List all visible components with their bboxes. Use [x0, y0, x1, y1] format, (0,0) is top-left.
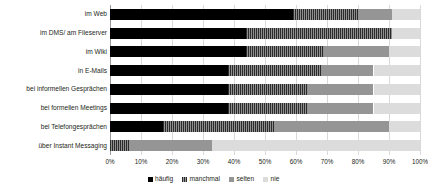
bar-segment-nie	[374, 103, 421, 114]
legend-label: nie	[271, 175, 280, 183]
bar-row	[110, 9, 420, 20]
bar-segment-nie	[392, 9, 420, 20]
bar-segment-nie	[374, 84, 421, 95]
legend-swatch-icon	[263, 177, 268, 182]
bar-segment-selten	[308, 84, 373, 95]
bar-segment-häufig	[110, 46, 246, 57]
bar-segment-selten	[321, 65, 374, 76]
bar-segment-selten	[129, 140, 213, 151]
x-tick-label: 30%	[197, 157, 210, 166]
bar-segment-nie	[392, 28, 420, 39]
bar-row	[110, 65, 420, 76]
bar-segment-häufig	[110, 121, 163, 132]
gridline-100pct	[420, 5, 421, 155]
bar-segment-manchmal	[246, 28, 392, 39]
x-tick-label: 60%	[290, 157, 303, 166]
legend-swatch-icon	[148, 177, 153, 182]
legend-swatch-icon	[229, 177, 234, 182]
x-tick-label: 20%	[166, 157, 179, 166]
category-label: bei Telefongesprächen	[0, 123, 107, 131]
bar-row	[110, 121, 420, 132]
legend-label: selten	[236, 175, 254, 183]
legend-item-manchmal[interactable]: manchmal	[182, 175, 220, 183]
bar-row	[110, 140, 420, 151]
bar-segment-manchmal	[163, 121, 275, 132]
bar-segment-manchmal	[228, 84, 309, 95]
bar-segment-selten	[358, 9, 392, 20]
bar-segment-häufig	[110, 65, 228, 76]
x-tick-label: 70%	[321, 157, 334, 166]
x-tick-label: 80%	[352, 157, 365, 166]
legend-label: häufig	[155, 175, 173, 183]
x-tick-label: 90%	[383, 157, 396, 166]
legend-item-nie[interactable]: nie	[263, 175, 279, 183]
legend-item-selten[interactable]: selten	[229, 175, 254, 183]
bar-segment-selten	[324, 46, 389, 57]
bar-segment-nie	[389, 46, 420, 57]
bar-segment-häufig	[110, 28, 246, 39]
category-axis-labels: im Webim DMS/ am Fileserverim Wikiin E-M…	[0, 5, 107, 155]
bar-segment-häufig	[110, 84, 228, 95]
x-tick-label: 10%	[135, 157, 148, 166]
bar-segment-selten	[308, 103, 373, 114]
bar-segment-häufig	[110, 9, 293, 20]
category-label: bei formellen Meetings	[0, 104, 107, 112]
bar-segment-nie	[374, 65, 421, 76]
chart-legend: häufigmanchmalseltennie	[0, 175, 427, 183]
category-label: im Web	[0, 10, 107, 18]
x-tick-label: 100%	[412, 157, 428, 166]
bar-segment-nie	[212, 140, 420, 151]
bar-segment-manchmal	[110, 140, 129, 151]
x-tick-label: 40%	[228, 157, 241, 166]
bar-segment-manchmal	[228, 103, 309, 114]
category-label: über Instant Messaging	[0, 142, 107, 150]
category-label: im Wiki	[0, 48, 107, 56]
bar-row	[110, 28, 420, 39]
bar-segment-häufig	[110, 103, 228, 114]
category-label: im DMS/ am Fileserver	[0, 29, 107, 37]
x-tick-label: 0%	[105, 157, 114, 166]
category-label: bei informellen Gesprächen	[0, 85, 107, 93]
x-tick-label: 50%	[259, 157, 272, 166]
legend-item-häufig[interactable]: häufig	[148, 175, 173, 183]
bar-row	[110, 46, 420, 57]
bar-segment-nie	[389, 121, 420, 132]
legend-label: manchmal	[190, 175, 220, 183]
bar-segment-manchmal	[246, 46, 324, 57]
plot-area	[110, 5, 420, 155]
value-axis-labels: 0%10%20%30%40%50%60%70%80%90%100%	[110, 157, 420, 167]
bar-segment-manchmal	[228, 65, 321, 76]
legend-swatch-icon	[182, 177, 187, 182]
category-label: in E-Mails	[0, 67, 107, 75]
bar-segment-manchmal	[293, 9, 358, 20]
bar-row	[110, 103, 420, 114]
bar-segment-selten	[274, 121, 389, 132]
bar-row	[110, 84, 420, 95]
